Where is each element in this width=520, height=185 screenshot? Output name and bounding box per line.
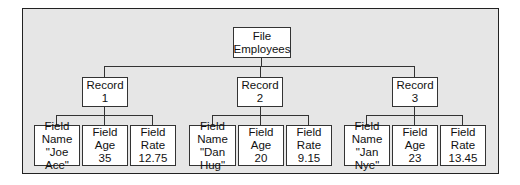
field-label: Field — [355, 120, 380, 133]
record-number: 3 — [412, 92, 418, 105]
field-name: Age — [405, 139, 425, 152]
field-name: Name — [197, 133, 228, 146]
field-name: Name — [352, 133, 383, 146]
connector — [462, 115, 463, 125]
field-name: Name — [42, 133, 73, 146]
field-value: "Dan Hug" — [190, 146, 235, 172]
connector — [414, 66, 415, 77]
field-label: Field — [297, 126, 322, 139]
field-node-age: Field Age 35 — [82, 125, 128, 166]
field-label: Field — [451, 126, 476, 139]
connector — [212, 115, 309, 116]
field-value: 13.45 — [449, 152, 478, 165]
field-node-age: Field Age 23 — [392, 125, 438, 166]
connector — [366, 115, 463, 116]
record-node-3: Record 3 — [392, 77, 438, 107]
field-node-rate: Field Rate 12.75 — [130, 125, 176, 166]
field-node-rate: Field Rate 9.15 — [286, 125, 332, 166]
record-label: Record — [396, 79, 433, 92]
record-node-2: Record 2 — [237, 77, 283, 107]
field-node-name: Field Name "Joe Ace" — [34, 125, 80, 166]
field-value: 35 — [99, 152, 112, 165]
field-label: Field — [93, 126, 118, 139]
connector — [104, 66, 105, 77]
field-name: Rate — [451, 139, 475, 152]
field-label: Field — [45, 120, 70, 133]
record-node-1: Record 1 — [82, 77, 128, 107]
field-value: "Jan Nye" — [345, 146, 389, 172]
connector — [261, 57, 262, 66]
file-node-name: Employees — [234, 43, 291, 56]
record-label: Record — [86, 79, 123, 92]
field-name: Rate — [141, 139, 165, 152]
field-value: 12.75 — [139, 152, 168, 165]
record-number: 1 — [102, 92, 108, 105]
field-name: Rate — [297, 139, 321, 152]
field-name: Age — [251, 139, 271, 152]
field-label: Field — [403, 126, 428, 139]
connector — [308, 115, 309, 125]
field-label: Field — [249, 126, 274, 139]
file-node-title: File — [253, 30, 272, 43]
field-value: 20 — [255, 152, 268, 165]
field-node-name: Field Name "Jan Nye" — [344, 125, 390, 166]
field-node-age: Field Age 20 — [238, 125, 284, 166]
field-label: Field — [141, 126, 166, 139]
file-node: File Employees — [233, 27, 291, 58]
connector — [56, 115, 153, 116]
field-name: Age — [95, 139, 115, 152]
field-label: Field — [200, 120, 225, 133]
field-value: 9.15 — [298, 152, 320, 165]
field-node-name: Field Name "Dan Hug" — [189, 125, 236, 166]
field-node-rate: Field Rate 13.45 — [440, 125, 486, 166]
record-number: 2 — [257, 92, 263, 105]
record-label: Record — [241, 79, 278, 92]
field-value: "Joe Ace" — [35, 146, 79, 172]
field-value: 23 — [409, 152, 422, 165]
connector — [260, 66, 261, 77]
connector — [152, 115, 153, 125]
